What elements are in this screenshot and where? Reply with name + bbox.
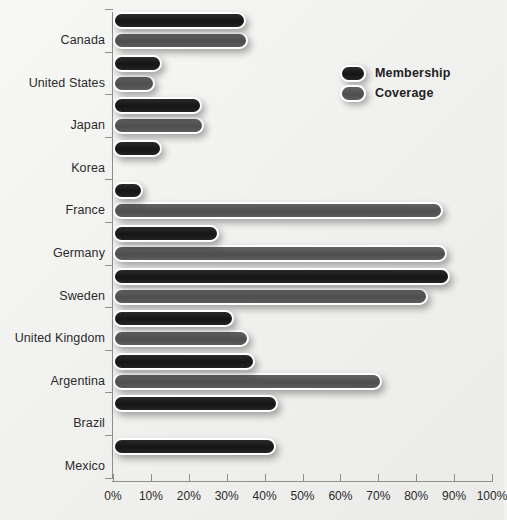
y-axis-tick [105, 52, 113, 53]
x-axis-tick-label: 20% [177, 489, 201, 503]
bar-membership-france [113, 182, 143, 199]
x-axis-tick-label: 80% [404, 489, 428, 503]
x-axis-tick [113, 474, 114, 482]
membership-swatch-icon [340, 65, 366, 82]
y-axis-tick [105, 307, 113, 308]
x-axis-tick [454, 474, 455, 482]
x-axis-tick [151, 474, 152, 482]
bar-membership-germany [113, 225, 219, 242]
x-axis-tick-label: 10% [139, 489, 163, 503]
category-label-united-kingdom: United Kingdom [0, 331, 105, 345]
bar-membership-sweden [113, 268, 450, 285]
x-axis-tick-label: 60% [328, 489, 352, 503]
bar-coverage-united-kingdom [113, 330, 249, 347]
category-label-canada: Canada [0, 33, 105, 47]
category-label-korea: Korea [0, 161, 105, 175]
bar-coverage-argentina [113, 373, 382, 390]
category-label-sweden: Sweden [0, 289, 105, 303]
legend-item-membership: Membership [340, 63, 451, 83]
coverage-swatch-icon [340, 85, 366, 102]
x-axis-tick [189, 474, 190, 482]
bar-membership-mexico [113, 438, 276, 455]
x-axis-tick-label: 70% [366, 489, 390, 503]
x-axis-tick-label: 90% [442, 489, 466, 503]
category-label-brazil: Brazil [0, 416, 105, 430]
bar-coverage-germany [113, 245, 447, 262]
bar-coverage-france [113, 202, 443, 219]
x-axis-tick-label: 40% [253, 489, 277, 503]
y-axis-tick [105, 478, 113, 479]
category-label-mexico: Mexico [0, 459, 105, 473]
bar-coverage-canada [113, 32, 248, 49]
x-axis-tick [378, 474, 379, 482]
legend-label-coverage: Coverage [375, 86, 434, 100]
y-axis-tick [105, 9, 113, 10]
category-label-france: France [0, 203, 105, 217]
x-axis-tick [492, 474, 493, 482]
x-axis-tick-label: 100% [477, 489, 507, 503]
bar-coverage-sweden [113, 288, 428, 305]
x-axis-tick [227, 474, 228, 482]
y-axis-tick [105, 350, 113, 351]
bar-coverage-united-states [113, 75, 155, 92]
x-axis-tick-label: 0% [104, 489, 121, 503]
bar-coverage-japan [113, 117, 204, 134]
x-axis-tick [340, 474, 341, 482]
y-axis-tick [105, 265, 113, 266]
x-axis-tick-label: 50% [290, 489, 314, 503]
legend-item-coverage: Coverage [340, 83, 451, 103]
category-axis-labels: CanadaUnited StatesJapanKoreaFranceGerma… [0, 10, 105, 480]
bar-membership-united-kingdom [113, 310, 234, 327]
x-axis-tick-label: 30% [215, 489, 239, 503]
legend-label-membership: Membership [375, 66, 451, 80]
category-label-japan: Japan [0, 118, 105, 132]
chart-legend: Membership Coverage [340, 63, 451, 103]
y-axis-tick [105, 392, 113, 393]
x-axis-tick [416, 474, 417, 482]
category-label-argentina: Argentina [0, 374, 105, 388]
bar-membership-canada [113, 12, 246, 29]
bar-membership-korea [113, 140, 162, 157]
y-axis-tick [105, 435, 113, 436]
y-axis-tick [105, 222, 113, 223]
y-axis-tick [105, 94, 113, 95]
category-label-germany: Germany [0, 246, 105, 260]
y-axis-tick [105, 179, 113, 180]
category-label-united-states: United States [0, 76, 105, 90]
x-axis-tick [265, 474, 266, 482]
bar-membership-united-states [113, 55, 162, 72]
bar-membership-brazil [113, 395, 278, 412]
bar-membership-argentina [113, 353, 255, 370]
bar-membership-japan [113, 97, 202, 114]
y-axis-tick [105, 137, 113, 138]
x-axis-tick [303, 474, 304, 482]
